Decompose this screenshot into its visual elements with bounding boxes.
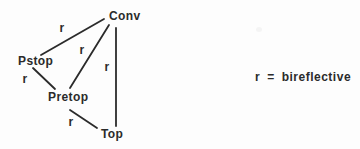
node-pretop: Pretop <box>48 91 88 103</box>
legend-meaning: bireflective <box>282 70 351 84</box>
scan-artifact <box>256 27 262 32</box>
edge-pstop-pretop <box>33 68 55 89</box>
category-lattice-diagram: Conv Pstop Pretop Top r r r r r <box>0 0 230 149</box>
legend-equals-sign: = <box>267 70 275 84</box>
legend: r = bireflective <box>255 70 351 84</box>
edge-label-top-conv: r <box>101 61 113 73</box>
node-top: Top <box>101 128 123 140</box>
edge-label-pretop-conv: r <box>76 44 88 56</box>
node-conv: Conv <box>109 10 141 22</box>
legend-symbol: r <box>255 70 260 84</box>
node-pstop: Pstop <box>18 55 53 67</box>
scanned-diagram-page: Conv Pstop Pretop Top r r r r r r = bire… <box>0 0 360 149</box>
edge-label-pstop-pretop: r <box>19 73 31 85</box>
edge-label-pstop-conv: r <box>56 22 68 34</box>
edge-label-pretop-top: r <box>65 116 77 128</box>
